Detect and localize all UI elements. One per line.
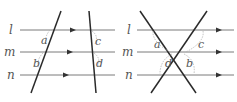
arrow-icon: [216, 50, 222, 55]
arrow-icon: [70, 28, 76, 33]
label-m-right: m: [122, 45, 133, 59]
arrow-icon: [63, 73, 69, 78]
figure-left: l m n a b c d: [4, 11, 115, 93]
label-m-left: m: [4, 45, 15, 59]
arrow-icon: [216, 73, 222, 78]
angle-label-b: b: [186, 57, 193, 70]
angle-label-b: b: [33, 57, 40, 70]
figure-right: l m n a c d b: [122, 11, 234, 93]
angle-label-d: d: [96, 57, 103, 70]
angle-label-c: c: [198, 38, 204, 51]
angle-label-a: a: [154, 38, 161, 51]
angle-label-a: a: [41, 34, 48, 47]
arrow-icon: [216, 28, 222, 33]
label-n-left: n: [7, 68, 15, 82]
angle-label-d: d: [165, 57, 172, 70]
angle-label-c: c: [95, 35, 101, 48]
label-l-left: l: [9, 23, 13, 37]
label-n-right: n: [125, 68, 133, 82]
arrow-icon: [67, 50, 73, 55]
diagram-canvas: l m n a b c d l m n a c d b: [0, 0, 237, 102]
label-l-right: l: [127, 23, 131, 37]
